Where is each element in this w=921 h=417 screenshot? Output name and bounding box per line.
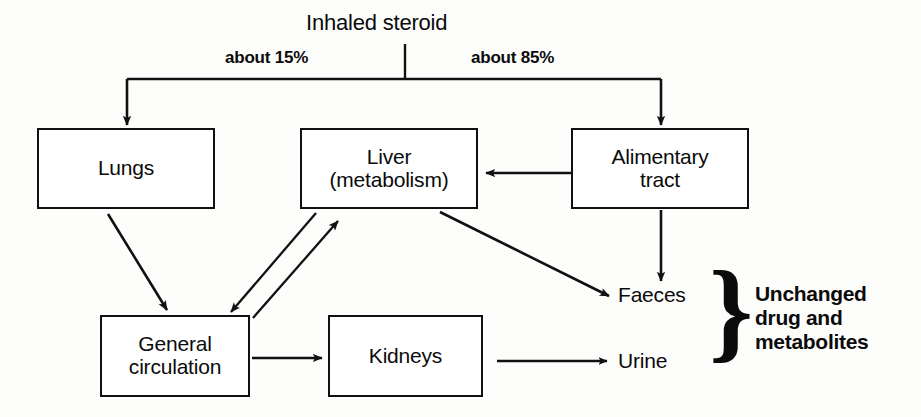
node-kidneys-label: Kidneys (369, 345, 442, 368)
diagram-canvas: Inhaled steroid about 15% about 85% Lung… (0, 0, 921, 417)
node-general-circulation-label: General circulation (129, 333, 221, 378)
output-faeces-label: Faeces (618, 283, 686, 307)
edge-liver-to-general-circulation (231, 213, 316, 312)
grouping-brace: } (709, 254, 753, 366)
split-label-left: about 15% (225, 48, 308, 68)
diagram-title: Inhaled steroid (306, 10, 447, 36)
node-lungs-label: Lungs (98, 157, 154, 180)
node-lungs[interactable]: Lungs (37, 128, 215, 209)
edge-lungs-to-general-circulation (108, 214, 167, 310)
node-kidneys[interactable]: Kidneys (328, 315, 483, 397)
node-alimentary-tract[interactable]: Alimentary tract (571, 128, 749, 209)
node-liver-label: Liver (metabolism) (330, 146, 449, 191)
split-label-right: about 85% (471, 48, 554, 68)
output-urine-label: Urine (618, 349, 667, 373)
node-liver[interactable]: Liver (metabolism) (300, 128, 478, 209)
edge-liver-to-faeces (440, 212, 609, 296)
brace-note: Unchanged drug and metabolites (755, 282, 868, 354)
node-general-circulation[interactable]: General circulation (100, 315, 250, 397)
node-alimentary-tract-label: Alimentary tract (611, 146, 708, 191)
